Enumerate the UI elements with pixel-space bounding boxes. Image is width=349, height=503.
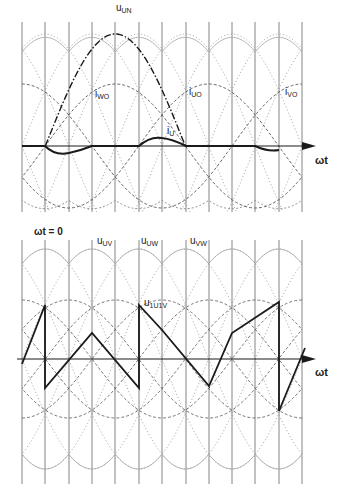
label-u-vw: uVW — [190, 236, 207, 247]
label-u-uv: uUV — [97, 236, 112, 247]
lower-grid-lines — [0, 240, 325, 484]
label-i-uo: iUO — [189, 87, 202, 98]
converter-waveform-diagram: uUN iWO iUO iVO iU ωt ωt = 0 uUV uUW uVW… — [0, 0, 349, 503]
label-i-vo: iVO — [285, 87, 297, 98]
label-u-uw: uUW — [141, 236, 158, 247]
label-u-1u1v: u1U1V — [144, 298, 167, 309]
label-i-u: iU — [167, 126, 174, 137]
axes — [17, 142, 316, 363]
upper-axis-label-omega-t: ωt — [315, 155, 328, 166]
upper-grid-lines — [0, 22, 325, 258]
label-omega-t-zero: ωt = 0 — [34, 227, 63, 237]
label-i-wo: iWO — [95, 89, 109, 100]
lower-axis-label-omega-t: ωt — [315, 367, 328, 378]
waveform-plot — [0, 0, 349, 503]
label-u-un: uUN — [116, 3, 132, 14]
